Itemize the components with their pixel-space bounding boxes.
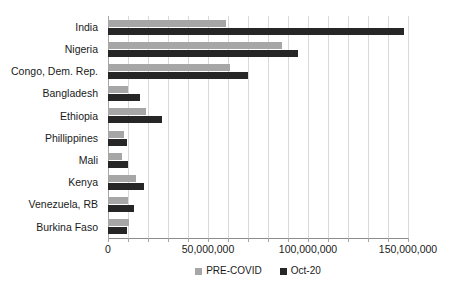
bar-group: [108, 60, 408, 82]
category-label: Congo, Dem. Rep.: [11, 66, 98, 77]
category-label: Ethiopia: [60, 111, 98, 122]
axis-tick: [268, 238, 269, 242]
axis-tick: [408, 238, 409, 242]
category-label-row: India: [0, 16, 103, 38]
bar-group: [108, 83, 408, 105]
category-label: Kenya: [68, 177, 98, 188]
category-label-row: Congo, Dem. Rep.: [0, 60, 103, 82]
bar-oct-20: [108, 72, 248, 79]
value-axis-labels: 050,000,000100,000,000150,000,000: [0, 244, 473, 260]
legend-label: Oct-20: [291, 266, 321, 276]
category-label-row: Venezuela, RB: [0, 194, 103, 216]
bar-group: [108, 194, 408, 216]
value-axis-ticks: [108, 238, 408, 242]
category-label-row: Nigeria: [0, 38, 103, 60]
legend-swatch-icon: [195, 268, 202, 275]
axis-tick: [328, 238, 329, 242]
axis-tick: [368, 238, 369, 242]
axis-tick: [248, 238, 249, 242]
axis-tick: [308, 238, 309, 242]
category-label: Phillippines: [45, 133, 98, 144]
bar-oct-20: [108, 94, 140, 101]
category-label-row: Mali: [0, 149, 103, 171]
category-label-row: Burkina Faso: [0, 216, 103, 238]
axis-tick-label: 150,000,000: [379, 244, 437, 255]
category-label: Burkina Faso: [36, 222, 98, 233]
category-label-row: Ethiopia: [0, 105, 103, 127]
axis-tick: [348, 238, 349, 242]
plot-area: [108, 16, 408, 238]
axis-tick: [168, 238, 169, 242]
axis-tick-label: 50,000,000: [182, 244, 235, 255]
bar-pre-covid: [108, 42, 282, 49]
category-label-row: Kenya: [0, 171, 103, 193]
bar-group: [108, 171, 408, 193]
bar-oct-20: [108, 227, 127, 234]
legend-swatch-icon: [280, 268, 287, 275]
bar-pre-covid: [108, 86, 128, 93]
bar-group: [108, 105, 408, 127]
axis-tick: [388, 238, 389, 242]
bar-oct-20: [108, 205, 134, 212]
axis-tick-label: 0: [105, 244, 111, 255]
legend-label: PRE-COVID: [206, 266, 262, 276]
bar-oct-20: [108, 139, 127, 146]
bar-oct-20: [108, 161, 128, 168]
bar-group: [108, 127, 408, 149]
category-axis: IndiaNigeriaCongo, Dem. Rep.BangladeshEt…: [0, 16, 103, 238]
axis-tick: [148, 238, 149, 242]
category-label: India: [75, 22, 98, 33]
axis-tick: [108, 238, 109, 242]
bar-chart: IndiaNigeriaCongo, Dem. Rep.BangladeshEt…: [0, 0, 473, 289]
bar-group: [108, 16, 408, 38]
category-label: Mali: [79, 155, 98, 166]
category-label-row: Phillippines: [0, 127, 103, 149]
bar-oct-20: [108, 50, 298, 57]
bar-group: [108, 38, 408, 60]
axis-tick: [288, 238, 289, 242]
gridline: [408, 16, 409, 238]
bar-oct-20: [108, 28, 404, 35]
bar-pre-covid: [108, 20, 226, 27]
axis-tick: [228, 238, 229, 242]
bar-oct-20: [108, 183, 144, 190]
bar-oct-20: [108, 116, 162, 123]
axis-tick: [188, 238, 189, 242]
legend-entry[interactable]: PRE-COVID: [195, 266, 262, 276]
bar-pre-covid: [108, 131, 124, 138]
bar-pre-covid: [108, 64, 230, 71]
category-label: Venezuela, RB: [29, 199, 98, 210]
bar-pre-covid: [108, 153, 122, 160]
bar-pre-covid: [108, 219, 129, 226]
category-label-row: Bangladesh: [0, 83, 103, 105]
bar-pre-covid: [108, 175, 136, 182]
axis-tick: [208, 238, 209, 242]
bar-pre-covid: [108, 197, 128, 204]
axis-tick: [128, 238, 129, 242]
bar-group: [108, 149, 408, 171]
category-label: Bangladesh: [43, 88, 98, 99]
category-label: Nigeria: [65, 44, 98, 55]
bar-pre-covid: [108, 108, 146, 115]
legend-entry[interactable]: Oct-20: [280, 266, 321, 276]
bar-group: [108, 216, 408, 238]
axis-tick-label: 100,000,000: [279, 244, 337, 255]
chart-legend: PRE-COVIDOct-20: [108, 264, 408, 278]
bar-series-container: [108, 16, 408, 238]
